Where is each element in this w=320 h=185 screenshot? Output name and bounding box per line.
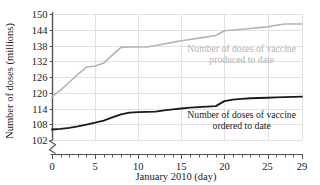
line-chart: 102108114120126132138144150 051015202529… [0,0,320,185]
x-tick-label: 10 [133,161,144,172]
x-tick-label: 25 [262,161,273,172]
x-tick-label: 5 [92,161,97,172]
y-axis-tick-labels: 102108114120126132138144150 [32,9,49,146]
annotation-ordered-to-date-line1: Number of doses of vaccine [187,109,296,120]
y-tick-label: 138 [32,41,48,52]
y-tick-label: 120 [32,88,48,99]
y-tick-label: 114 [32,104,48,115]
x-axis-title: January 2010 (day) [135,171,217,183]
y-tick-label: 150 [32,9,48,20]
x-tick-label: 0 [49,161,54,172]
y-tick-label: 102 [32,135,48,146]
y-tick-label: 126 [32,72,48,83]
x-tick-label: 20 [219,161,230,172]
y-tick-label: 132 [32,56,48,67]
x-tick-label: 29 [297,161,308,172]
annotation-produced-to-date-line1: Number of doses of vaccine [187,43,296,54]
annotation-ordered-to-date-line2: ordered to date [213,120,271,131]
chart-background [0,0,320,185]
chart-figure: 102108114120126132138144150 051015202529… [0,0,320,185]
x-tick-label: 15 [176,161,187,172]
y-tick-label: 108 [32,119,48,130]
y-tick-label: 144 [32,25,49,36]
y-axis-title: Number of doses (millions) [4,23,16,139]
annotation-produced-to-date-line2: produced to date [209,54,274,65]
